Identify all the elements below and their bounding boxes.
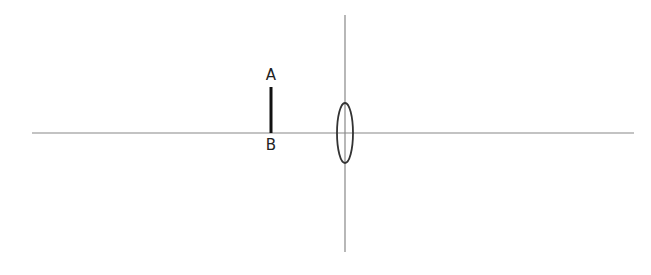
label-point-b: B: [266, 138, 276, 153]
label-point-a: A: [266, 68, 276, 83]
optics-diagram: [0, 0, 651, 275]
